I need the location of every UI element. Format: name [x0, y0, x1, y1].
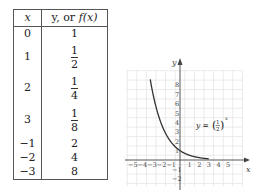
right-paren: ) — [220, 119, 224, 132]
x-tick-label: 2 — [197, 161, 201, 169]
y-tick-label: 7 — [175, 91, 179, 99]
y-tick-label: 8 — [175, 81, 179, 89]
y-tick-label: 5 — [175, 110, 179, 118]
y-tick-label: −1 — [172, 166, 182, 174]
x-tick-label: −2 — [157, 161, 167, 169]
x-tick-label: −4 — [138, 161, 148, 169]
x-tick-label: −5 — [128, 161, 138, 169]
x-tick-label: 1 — [188, 161, 192, 169]
equation-exponent: x — [225, 115, 228, 121]
x-axis-label: x — [246, 165, 251, 174]
y-tick-label: −2 — [172, 175, 182, 183]
y-axis-arrow-icon — [178, 58, 183, 65]
equation-denominator: 2 — [216, 126, 220, 132]
x-tick-label: 3 — [207, 161, 211, 169]
y-axis-label: y — [171, 58, 177, 67]
equation-numerator: 1 — [216, 119, 220, 125]
exponential-graph: y x −5−4−3−2−112345 87654321−1−2 y = ( 1… — [0, 0, 268, 195]
y-tick-label: 4 — [175, 119, 179, 127]
exponential-curve — [150, 79, 209, 158]
y-tick-label: 6 — [175, 100, 179, 108]
y-tick-label: 2 — [175, 138, 179, 146]
x-axis-arrow-icon — [244, 158, 250, 163]
x-tick-label: 4 — [216, 161, 220, 169]
equation-lhs: y = — [195, 121, 209, 130]
x-tick-label: 5 — [226, 161, 230, 169]
x-tick-label: −3 — [147, 161, 157, 169]
y-tick-label: 3 — [175, 128, 179, 136]
